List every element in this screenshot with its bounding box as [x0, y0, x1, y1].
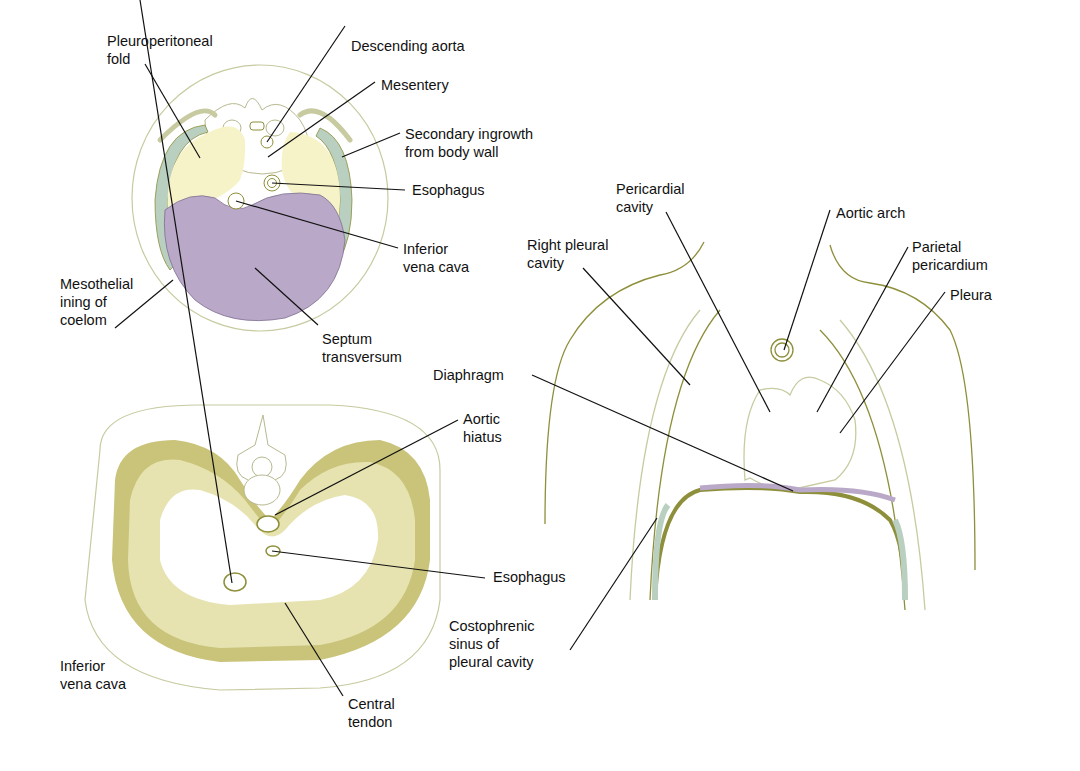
label-aortic-hiatus: Aortic hiatus — [463, 410, 502, 446]
anatomy-figure — [0, 0, 1080, 771]
label-esophagus-adult: Esophagus — [493, 568, 566, 586]
embryo-cross-section — [132, 65, 388, 331]
label-secondary-ingrowth: Secondary ingrowth from body wall — [405, 125, 533, 161]
label-pleuroperitoneal-fold: Pleuroperitoneal fold — [107, 32, 213, 68]
label-mesothelial-lining: Mesothelial ining of coelom — [60, 275, 133, 329]
label-parietal-pericardium: Parietal pericardium — [912, 238, 988, 274]
label-inferior-vena-cava-embryo: Inferior vena cava — [403, 240, 469, 276]
label-esophagus-embryo: Esophagus — [412, 181, 485, 199]
label-right-pleural-cavity: Right pleural cavity — [527, 236, 608, 272]
label-mesentery: Mesentery — [381, 76, 449, 94]
label-pleura: Pleura — [950, 286, 992, 304]
label-aortic-arch: Aortic arch — [836, 204, 905, 222]
label-costophrenic-sinus: Costophrenic sinus of pleural cavity — [449, 617, 534, 671]
label-diaphragm: Diaphragm — [433, 366, 504, 384]
adult-diaphragm-inferior-view — [85, 405, 440, 690]
label-pericardial-cavity: Pericardial cavity — [616, 180, 685, 216]
label-inferior-vena-cava-adult: Inferior vena cava — [60, 657, 126, 693]
label-septum-transversum: Septum transversum — [322, 330, 402, 366]
label-descending-aorta: Descending aorta — [351, 37, 465, 55]
label-central-tendon: Central tendon — [348, 695, 395, 731]
